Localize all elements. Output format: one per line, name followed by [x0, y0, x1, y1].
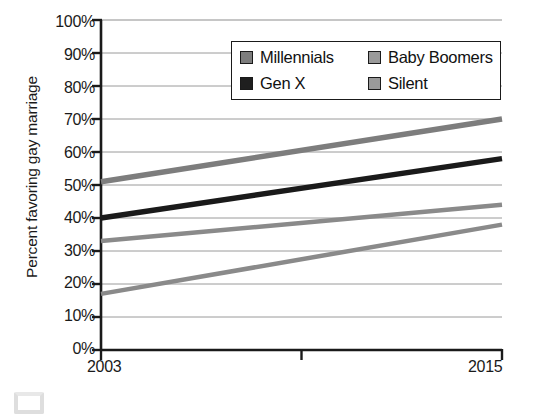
legend-label: Baby Boomers	[388, 48, 493, 67]
page-corner-artifact	[14, 392, 44, 414]
legend-item-baby-boomers: Baby Boomers	[368, 48, 500, 67]
legend-item-silent: Silent	[368, 74, 500, 93]
legend-label: Gen X	[260, 74, 305, 93]
legend-swatch-icon	[240, 51, 253, 64]
legend-label: Silent	[388, 74, 427, 93]
x-tick-label-end: 2015	[468, 358, 502, 376]
legend-label: Millennials	[260, 48, 334, 67]
legend-swatch-icon	[240, 77, 253, 90]
chart-legend: Millennials Baby Boomers Gen X Silent	[231, 41, 501, 100]
legend-swatch-icon	[368, 51, 381, 64]
x-tick-label-start: 2003	[87, 358, 121, 376]
legend-item-millennials: Millennials	[240, 48, 368, 67]
series-line-millennials	[101, 119, 502, 182]
data-series-group	[101, 119, 502, 294]
legend-swatch-icon	[368, 77, 381, 90]
legend-item-gen-x: Gen X	[240, 74, 368, 93]
